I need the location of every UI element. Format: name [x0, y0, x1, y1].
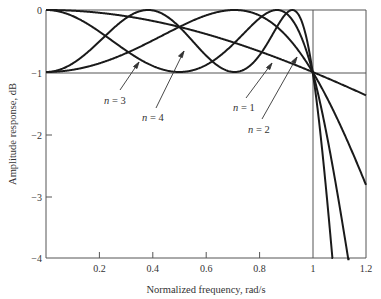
- x-tick-label: 1.2: [360, 263, 373, 274]
- x-tick-label: 0.2: [93, 263, 106, 274]
- label-n3: n = 3: [104, 95, 126, 106]
- x-tick-label: 0.6: [200, 263, 213, 274]
- x-tick-labels: 0.2 0.4 0.6 0.8 1 1.2: [93, 263, 372, 274]
- y-tick-label: −4: [31, 253, 42, 264]
- y-tick-label: −1: [31, 68, 42, 79]
- label-n2: n = 2: [248, 124, 270, 135]
- y-axis-title: Amplitude response, dB: [7, 83, 18, 185]
- response-curves: [46, 10, 366, 260]
- chart: 0.2 0.4 0.6 0.8 1 1.2 0 −1 −2 −3 −4 Norm…: [0, 0, 381, 299]
- x-tick-label: 0.4: [147, 263, 160, 274]
- annotation-arrows: [120, 51, 297, 119]
- curve-n4: [46, 10, 333, 258]
- label-n1: n = 1: [233, 102, 255, 113]
- x-axis-title: Normalized frequency, rad/s: [146, 284, 265, 295]
- y-tick-label: 0: [37, 5, 42, 16]
- x-tick-label: 1: [311, 263, 316, 274]
- x-tick-label: 0.8: [253, 263, 266, 274]
- y-tick-label: −3: [31, 192, 42, 203]
- label-n4: n = 4: [142, 112, 164, 123]
- y-tick-labels: 0 −1 −2 −3 −4: [31, 5, 42, 264]
- y-tick-label: −2: [31, 130, 42, 141]
- ticks: [46, 135, 260, 258]
